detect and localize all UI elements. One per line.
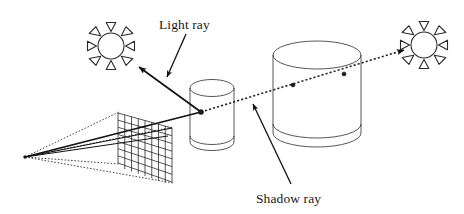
light-ray-label: Light ray [159, 17, 210, 32]
sun-spikes-right [401, 22, 448, 69]
frustum-edge-bottom [25, 157, 119, 164]
ray-tracing-diagram: Light ray Shadow ray [0, 0, 464, 214]
frustum-edge-bottom-far [25, 157, 173, 183]
primary-hit-point [198, 109, 203, 114]
large-cylinder-bottom-arc [273, 133, 361, 147]
shadow-entry-point [291, 83, 295, 87]
small-cylinder [190, 80, 234, 151]
image-plane-grid [118, 113, 172, 183]
large-cylinder-top-ellipse [273, 41, 361, 69]
sun-disc-right [411, 32, 437, 58]
frustum-center-line-upper [25, 128, 172, 157]
rays-group [25, 50, 404, 157]
shadow-ray-leader [253, 104, 291, 184]
sun-spikes-left [88, 23, 135, 70]
small-cylinder-bottom-arc [190, 142, 234, 151]
light-source-left [88, 23, 135, 70]
diagram-canvas: Light ray Shadow ray [0, 0, 464, 214]
sun-disc-left [98, 33, 124, 59]
small-cylinder-bottom-arc-back [190, 136, 234, 145]
light-source-right [401, 22, 448, 69]
small-cylinder-top-ellipse [190, 80, 234, 97]
shadow-ray-label: Shadow ray [256, 191, 321, 206]
leader-lines-group [167, 34, 291, 184]
light-ray-leader [167, 34, 186, 77]
light-ray-to-left-sun [139, 67, 201, 112]
shadow-ray-to-right-sun [201, 50, 404, 112]
large-cylinder-bottom-arc-back [273, 124, 361, 138]
shadow-exit-point [342, 72, 346, 76]
eye-ray [25, 112, 201, 157]
large-cylinder [273, 41, 361, 147]
viewing-frustum [24, 112, 174, 183]
